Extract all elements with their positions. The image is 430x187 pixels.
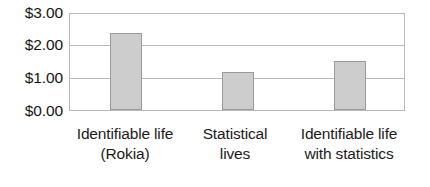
- y-tick-label-2: $2.00: [25, 37, 63, 53]
- x-category-line-1: Identifiable life: [55, 124, 195, 144]
- y-tick-label-1: $1.00: [25, 70, 63, 86]
- x-axis-category-labels: Identifiable life (Rokia) Statistical li…: [69, 124, 405, 182]
- y-tick-label-3: $3.00: [25, 5, 63, 21]
- bar-identifiable-life-rokia[interactable]: [110, 33, 142, 110]
- x-category-line-2: with statistics: [279, 144, 419, 164]
- y-tick-label-0: $0.00: [25, 103, 63, 119]
- bar-identifiable-life-with-statistics[interactable]: [334, 61, 366, 110]
- x-category-label-identifiable-life-rokia: Identifiable life (Rokia): [55, 124, 195, 163]
- bars-layer: [70, 14, 404, 110]
- x-category-label-statistical-lives: Statistical lives: [177, 124, 293, 163]
- x-category-line-1: Identifiable life: [279, 124, 419, 144]
- bar-chart: $3.00 $2.00 $1.00 $0.00 Identifiable lif…: [0, 0, 430, 187]
- x-category-label-identifiable-life-with-statistics: Identifiable life with statistics: [279, 124, 419, 163]
- plot-area: [69, 13, 405, 111]
- x-category-line-1: Statistical: [177, 124, 293, 144]
- bar-statistical-lives[interactable]: [222, 72, 254, 110]
- x-category-line-2: lives: [177, 144, 293, 164]
- x-category-line-2: (Rokia): [55, 144, 195, 164]
